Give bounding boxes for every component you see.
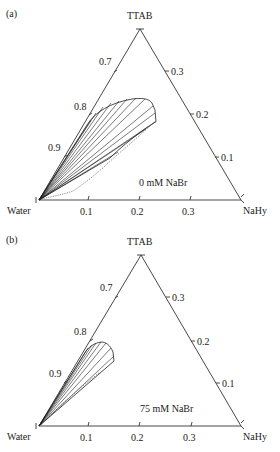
left-tick-label: 0.9 <box>48 142 61 153</box>
ternary-diagrams: (a) TTAB Water NaHy 0.7 0.8 0.9 0.3 0.2 … <box>0 0 280 452</box>
right-tick-label: 0.1 <box>221 152 234 163</box>
right-tick-label: 0.3 <box>171 66 184 77</box>
bottom-tick-label: 0.3 <box>182 206 195 217</box>
salt-annotation: 0 mM NaBr <box>139 177 188 188</box>
bottom-tick-label: 0.1 <box>80 432 93 443</box>
right-tick-label: 0.1 <box>222 378 235 389</box>
triangle-axes <box>39 255 241 426</box>
right-ticks <box>166 297 220 383</box>
right-tick-label: 0.2 <box>196 109 209 120</box>
bottom-ticks <box>88 422 192 426</box>
vertex-label-left: Water <box>7 205 31 216</box>
bottom-ticks <box>88 196 191 200</box>
panel-b: (b) TTAB Water NaHy 0.7 0.8 0.9 0.3 0.2 … <box>6 234 267 443</box>
left-tick-label: 0.7 <box>99 56 112 67</box>
triangle-axes <box>39 29 241 200</box>
right-tick-label: 0.3 <box>172 292 185 303</box>
right-tick-label: 0.2 <box>197 336 210 347</box>
vertex-label-left: Water <box>7 431 31 442</box>
salt-annotation: 75 mM NaBr <box>140 403 194 414</box>
bottom-tick-label: 0.2 <box>131 432 144 443</box>
tie-lines <box>39 342 114 426</box>
left-tick-label: 0.7 <box>100 282 113 293</box>
panel-a: (a) TTAB Water NaHy 0.7 0.8 0.9 0.3 0.2 … <box>6 8 267 217</box>
vertex-label-top: TTAB <box>127 236 153 247</box>
vertex-label-right: NaHy <box>243 431 267 442</box>
bottom-tick-label: 0.3 <box>183 432 196 443</box>
left-tick-label: 0.8 <box>74 101 87 112</box>
panel-label: (a) <box>6 8 17 20</box>
bottom-tick-label: 0.2 <box>131 206 144 217</box>
vertex-label-top: TTAB <box>127 10 153 21</box>
vertex-label-right: NaHy <box>243 205 267 216</box>
left-tick-label: 0.9 <box>49 368 62 379</box>
left-tick-label: 0.8 <box>74 326 87 337</box>
right-ticks <box>165 71 219 157</box>
panel-label: (b) <box>6 234 18 246</box>
bottom-tick-label: 0.1 <box>80 206 93 217</box>
